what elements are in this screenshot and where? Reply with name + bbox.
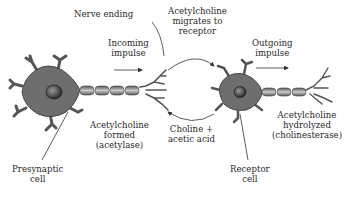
label-incoming-impulse: Incoming impulse bbox=[108, 38, 149, 58]
label-line: receptor bbox=[168, 26, 227, 36]
label-line: Acetylcholine bbox=[168, 6, 227, 16]
label-receptor-cell: Receptor cell bbox=[230, 164, 270, 184]
label-line: Presynaptic bbox=[12, 164, 63, 174]
label-choline-acetic-acid: Choline + acetic acid bbox=[168, 124, 215, 144]
label-line: impulse bbox=[108, 48, 149, 58]
label-ach-hydrolyzed: Acetylcholine hydrolyzed (cholinesterase… bbox=[272, 110, 342, 140]
label-line: (cholinesterase) bbox=[272, 130, 342, 140]
label-line: migrates to bbox=[168, 16, 227, 26]
label-line: cell bbox=[12, 174, 63, 184]
label-line: impulse bbox=[252, 48, 293, 58]
label-line: (acetylase) bbox=[90, 140, 149, 150]
label-ach-migrates: Acetylcholine migrates to receptor bbox=[168, 6, 227, 36]
presynaptic-neuron bbox=[10, 56, 168, 130]
label-line: Choline + bbox=[168, 124, 215, 134]
label-presynaptic-cell: Presynaptic cell bbox=[12, 164, 63, 184]
label-line: Incoming bbox=[108, 38, 149, 48]
label-ach-formed: Acetylcholine formed (acetylase) bbox=[90, 120, 149, 150]
label-line: Receptor bbox=[230, 164, 270, 174]
label-line: Outgoing bbox=[252, 38, 293, 48]
label-outgoing-impulse: Outgoing impulse bbox=[252, 38, 293, 58]
label-line: Nerve ending bbox=[74, 9, 133, 19]
label-line: hydrolyzed bbox=[272, 120, 342, 130]
label-nerve-ending: Nerve ending bbox=[74, 9, 133, 19]
label-line: Acetylcholine bbox=[90, 120, 149, 130]
label-line: formed bbox=[90, 130, 149, 140]
neuron-synapse-diagram: Nerve ending Incoming impulse Acetylchol… bbox=[0, 0, 356, 197]
label-line: acetic acid bbox=[168, 134, 215, 144]
label-line: cell bbox=[230, 174, 270, 184]
label-line: Acetylcholine bbox=[272, 110, 342, 120]
